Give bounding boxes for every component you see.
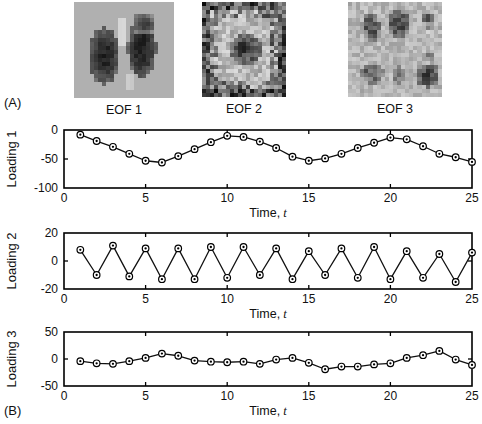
data-point-center (340, 365, 342, 367)
y-axis-title: Loading 1 (4, 130, 19, 187)
data-point-center (471, 161, 473, 163)
eof-3-image (348, 2, 442, 97)
data-point-center (128, 275, 130, 277)
data-point-center (357, 277, 359, 279)
data-point-center (193, 148, 195, 150)
data-point-center (422, 354, 424, 356)
x-tick-label: 10 (221, 389, 235, 403)
y-tick-label: -50 (41, 152, 59, 166)
data-point-center (422, 277, 424, 279)
data-point-center (193, 359, 195, 361)
data-point-center (357, 147, 359, 149)
x-tick-label: 0 (61, 389, 68, 403)
data-point-center (161, 352, 163, 354)
data-point-center (144, 247, 146, 249)
loading-2-plot: 0510152025-20020Loading 2Time,t (0, 226, 482, 326)
data-point-center (210, 361, 212, 363)
data-point-center (438, 350, 440, 352)
data-point-center (406, 357, 408, 359)
data-point-center (193, 278, 195, 280)
data-point-center (275, 247, 277, 249)
data-point-center (177, 355, 179, 357)
data-point-center (242, 246, 244, 248)
data-point-center (373, 363, 375, 365)
data-point-center (389, 278, 391, 280)
data-point-center (161, 161, 163, 163)
x-axis-title: Time,t (249, 404, 287, 418)
data-point-center (226, 135, 228, 137)
data-point-center (259, 274, 261, 276)
data-point-center (210, 141, 212, 143)
x-tick-label: 15 (302, 389, 316, 403)
data-point-center (79, 249, 81, 251)
x-tick-label: 20 (384, 292, 398, 306)
data-point-center (471, 251, 473, 253)
data-point-center (161, 278, 163, 280)
panel-b-label: (B) (4, 403, 21, 418)
x-tick-label: 20 (384, 191, 398, 205)
data-point-center (95, 274, 97, 276)
eof-3-block: EOF 3 (348, 2, 442, 116)
data-point-center (79, 133, 81, 135)
x-tick-label: 15 (302, 292, 316, 306)
y-axis-title: Loading 3 (4, 330, 19, 387)
eof-1-block: EOF 1 (74, 2, 174, 117)
data-point-center (226, 277, 228, 279)
eof-2-block: EOF 2 (202, 2, 286, 116)
data-point-center (128, 360, 130, 362)
data-point-center (144, 357, 146, 359)
data-point-center (112, 146, 114, 148)
data-point-center (259, 363, 261, 365)
data-point-center (471, 364, 473, 366)
y-axis-title: Loading 2 (4, 232, 19, 289)
data-point-center (455, 156, 457, 158)
x-tick-label: 0 (61, 191, 68, 205)
data-point-center (308, 160, 310, 162)
x-axis-title: Time,t (249, 307, 287, 321)
x-tick-label: 25 (465, 292, 479, 306)
x-tick-label: 0 (61, 292, 68, 306)
data-point-center (144, 160, 146, 162)
data-point-center (308, 362, 310, 364)
data-point-center (79, 360, 81, 362)
x-tick-label: 25 (465, 191, 479, 205)
data-point-center (340, 247, 342, 249)
y-tick-label: 20 (45, 226, 59, 240)
data-point-center (406, 138, 408, 140)
data-point-center (373, 142, 375, 144)
data-point-center (455, 281, 457, 283)
data-point-center (291, 156, 293, 158)
eof-2-caption: EOF 2 (202, 102, 286, 116)
x-tick-label: 10 (221, 292, 235, 306)
data-point-center (438, 253, 440, 255)
data-point-center (275, 358, 277, 360)
data-point-center (177, 247, 179, 249)
panel-a-label: (A) (4, 95, 21, 110)
y-tick-label: 0 (51, 254, 58, 268)
data-point-center (112, 244, 114, 246)
y-tick-label: -100 (34, 181, 58, 195)
data-point-center (210, 246, 212, 248)
y-tick-label: 0 (51, 352, 58, 366)
plot-frame (64, 130, 472, 188)
data-point-center (177, 155, 179, 157)
data-point-center (112, 363, 114, 365)
data-point-center (340, 153, 342, 155)
eof-2-image (202, 2, 286, 97)
data-point-center (357, 365, 359, 367)
loading-1-plot: 0510152025-100-500Loading 1Time,t (0, 118, 482, 222)
data-point-center (455, 358, 457, 360)
data-point-center (422, 145, 424, 147)
eof-3-caption: EOF 3 (348, 102, 442, 116)
data-point-center (324, 274, 326, 276)
y-tick-label: 0 (51, 123, 58, 137)
data-point-center (389, 362, 391, 364)
data-point-center (291, 278, 293, 280)
panel-a-eof-images: (A) EOF 1 EOF 2 EOF 3 (0, 0, 482, 115)
x-tick-label: 5 (142, 191, 149, 205)
y-tick-label: -50 (41, 379, 59, 393)
x-tick-label: 10 (221, 191, 235, 205)
data-point-center (308, 250, 310, 252)
data-point-center (438, 153, 440, 155)
data-point-center (259, 140, 261, 142)
